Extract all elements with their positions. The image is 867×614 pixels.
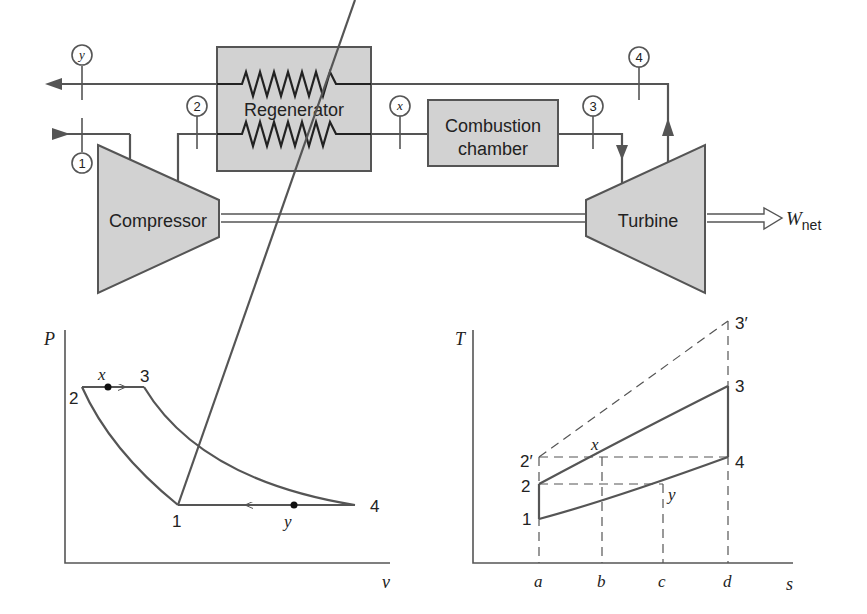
pv-point-y bbox=[291, 502, 298, 509]
ts-label-2: 2 bbox=[521, 477, 530, 496]
inlet-arrow-icon bbox=[52, 128, 70, 140]
ts-axis-t: T bbox=[455, 329, 467, 349]
state-marker-x-label: x bbox=[396, 98, 403, 113]
state-marker-y-label: y bbox=[77, 47, 85, 62]
turbine-label: Turbine bbox=[618, 211, 678, 231]
ts-axis-s: s bbox=[786, 574, 793, 594]
regenerator-label: Regenerator bbox=[244, 100, 344, 120]
shaft bbox=[221, 214, 586, 222]
ts-label-y: y bbox=[666, 485, 676, 504]
ts-label-1: 1 bbox=[522, 510, 531, 529]
state-marker-2-label: 2 bbox=[193, 99, 200, 114]
pv-label-4: 4 bbox=[370, 497, 379, 516]
turbine-inlet-arrow-icon bbox=[616, 145, 628, 160]
work-output-arrow-icon bbox=[707, 208, 782, 229]
pv-label-1: 1 bbox=[172, 512, 181, 531]
ts-tick-c: c bbox=[658, 572, 666, 591]
ts-tick-d: d bbox=[723, 572, 732, 591]
combustion-label-line2: chamber bbox=[458, 139, 528, 159]
pv-label-2: 2 bbox=[69, 389, 78, 408]
ts-label-4: 4 bbox=[735, 453, 744, 472]
compressor-label: Compressor bbox=[109, 211, 207, 231]
state-marker-3-label: 3 bbox=[589, 99, 596, 114]
turbine-inlet-line bbox=[558, 134, 622, 183]
ts-label-3: 3 bbox=[735, 377, 744, 396]
pv-point-x bbox=[105, 384, 112, 391]
pv-axis-p: P bbox=[43, 329, 55, 349]
combustion-label-line1: Combustion bbox=[445, 116, 541, 136]
ts-tick-a: a bbox=[534, 572, 543, 591]
ts-axes bbox=[473, 330, 793, 563]
state-marker-4-label: 4 bbox=[635, 50, 642, 65]
ts-label-3prime: 3′ bbox=[735, 314, 748, 333]
ts-label-x: x bbox=[590, 435, 599, 454]
work-output-label: Wnet bbox=[786, 208, 821, 233]
brayton-cycle-figure: Regenerator Combustion chamber Compresso… bbox=[0, 0, 867, 614]
pv-label-3: 3 bbox=[140, 367, 149, 386]
pv-label-x: x bbox=[97, 365, 106, 384]
combustion-chamber: Combustion chamber bbox=[428, 100, 558, 166]
regenerator: Regenerator bbox=[217, 47, 371, 171]
ts-tick-b: b bbox=[597, 572, 606, 591]
state-marker-1-label: 1 bbox=[78, 156, 85, 171]
pv-axis-v: v bbox=[382, 572, 390, 592]
turbine: Turbine bbox=[586, 145, 705, 293]
pv-label-y: y bbox=[282, 512, 292, 531]
turbine-exit-arrow-icon bbox=[662, 118, 674, 136]
ts-label-2prime: 2′ bbox=[520, 452, 533, 471]
compressor: Compressor bbox=[98, 145, 219, 293]
ts-diagram: T s 2′ 2 1 3′ 3 4 x y a bbox=[455, 314, 793, 594]
exhaust-outlet-arrow bbox=[45, 78, 62, 90]
